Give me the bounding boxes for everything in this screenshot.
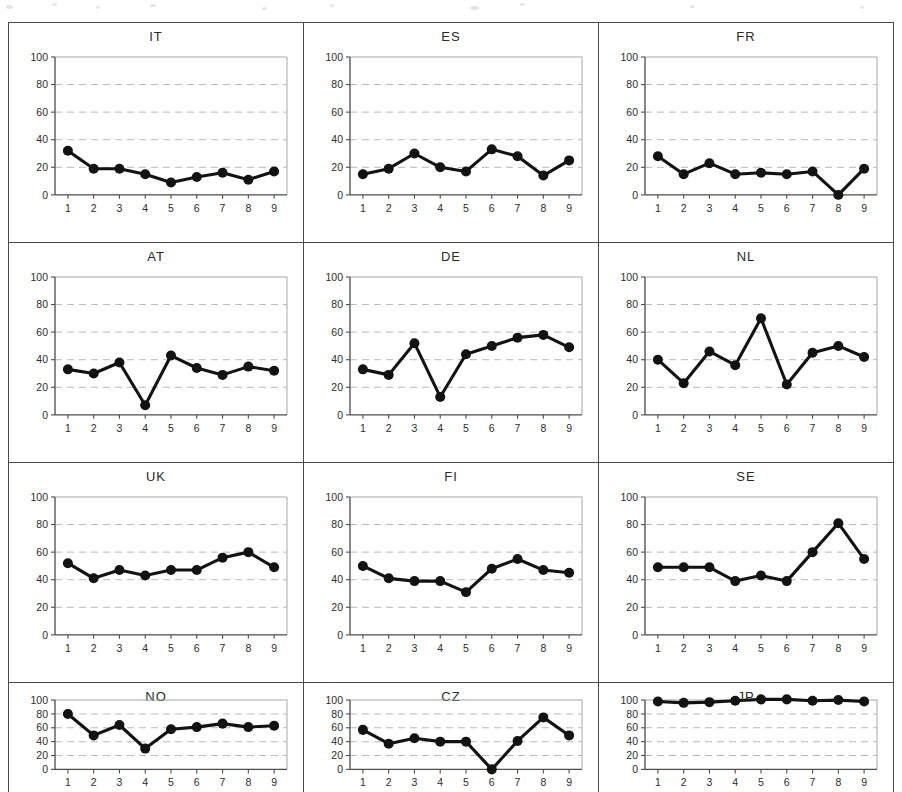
data-point-marker — [513, 151, 523, 161]
data-point-marker — [756, 168, 766, 178]
x-tick-label: 9 — [566, 203, 572, 214]
y-tick-label: 100 — [620, 693, 638, 705]
y-tick-label: 40 — [626, 354, 638, 365]
x-tick-label: 5 — [168, 776, 174, 788]
y-tick-label: 100 — [325, 491, 343, 502]
x-tick-label: 7 — [515, 203, 521, 214]
data-point-marker — [192, 363, 202, 373]
y-tick-label: 20 — [36, 602, 48, 613]
panel-cell: JP020406080100123456789 — [599, 682, 894, 792]
y-tick-label: 0 — [42, 409, 48, 420]
data-point-marker — [513, 332, 523, 342]
x-tick-label: 1 — [360, 776, 366, 788]
x-tick-label: 1 — [65, 203, 71, 214]
data-point-marker — [435, 736, 445, 746]
x-tick-label: 2 — [681, 776, 687, 788]
x-tick-label: 1 — [65, 643, 71, 654]
y-tick-label: 0 — [632, 763, 638, 775]
x-tick-label: 5 — [463, 643, 469, 654]
x-tick-label: 5 — [463, 776, 469, 788]
data-point-marker — [859, 352, 869, 362]
y-tick-label: 20 — [626, 382, 638, 393]
data-point-marker — [513, 554, 523, 564]
plot-area: 020406080100123456789 — [304, 23, 598, 242]
x-tick-label: 8 — [540, 423, 546, 434]
data-point-marker — [114, 565, 124, 575]
data-point-marker — [730, 360, 740, 370]
x-tick-label: 3 — [707, 776, 713, 788]
x-tick-label: 5 — [463, 203, 469, 214]
x-tick-label: 5 — [758, 203, 764, 214]
x-tick-label: 9 — [861, 776, 867, 788]
y-tick-label: 60 — [331, 547, 343, 558]
data-point-marker — [384, 370, 394, 380]
x-tick-label: 3 — [707, 423, 713, 434]
y-tick-label: 40 — [331, 735, 343, 747]
x-tick-label: 9 — [566, 643, 572, 654]
x-tick-label: 5 — [758, 643, 764, 654]
y-tick-label: 40 — [36, 574, 48, 585]
data-point-marker — [114, 164, 124, 174]
data-point-marker — [538, 330, 548, 340]
data-point-marker — [704, 158, 714, 168]
y-tick-label: 80 — [626, 519, 638, 530]
y-tick-label: 60 — [331, 721, 343, 733]
x-tick-label: 4 — [142, 776, 148, 788]
x-tick-label: 8 — [245, 423, 251, 434]
series-line — [363, 335, 569, 397]
data-point-marker — [63, 146, 73, 156]
x-tick-label: 2 — [681, 203, 687, 214]
data-point-marker — [833, 518, 843, 528]
data-point-marker — [461, 736, 471, 746]
plot-area: 020406080100123456789 — [9, 243, 303, 462]
y-tick-label: 100 — [620, 52, 638, 63]
data-point-marker — [166, 724, 176, 734]
plot-area: 020406080100123456789 — [304, 463, 598, 682]
data-point-marker — [140, 169, 150, 179]
y-tick-label: 80 — [626, 707, 638, 719]
x-tick-label: 7 — [515, 643, 521, 654]
x-tick-label: 6 — [784, 203, 790, 214]
y-tick-label: 20 — [331, 749, 343, 761]
x-tick-label: 1 — [360, 203, 366, 214]
x-tick-label: 2 — [386, 203, 392, 214]
data-point-marker — [192, 565, 202, 575]
chart-panel-8: SE020406080100123456789 — [599, 463, 893, 682]
data-point-marker — [435, 392, 445, 402]
y-tick-label: 0 — [632, 409, 638, 420]
y-tick-label: 80 — [331, 707, 343, 719]
data-point-marker — [564, 155, 574, 165]
y-tick-label: 0 — [42, 763, 48, 775]
plot-area: 020406080100123456789 — [9, 463, 303, 682]
x-tick-label: 3 — [117, 203, 123, 214]
x-tick-label: 3 — [117, 643, 123, 654]
y-tick-label: 20 — [36, 382, 48, 393]
data-point-marker — [782, 379, 792, 389]
data-point-marker — [89, 368, 99, 378]
x-tick-label: 2 — [91, 776, 97, 788]
x-tick-label: 7 — [220, 423, 226, 434]
x-tick-label: 9 — [861, 423, 867, 434]
y-tick-label: 60 — [36, 107, 48, 118]
y-tick-label: 20 — [626, 602, 638, 613]
x-tick-label: 4 — [732, 643, 738, 654]
data-point-marker — [140, 570, 150, 580]
y-tick-label: 40 — [331, 574, 343, 585]
y-tick-label: 60 — [36, 547, 48, 558]
plot-area: 020406080100123456789 — [599, 683, 893, 792]
data-point-marker — [833, 190, 843, 200]
panel-cell: AT020406080100123456789 — [9, 242, 304, 462]
x-tick-label: 9 — [271, 643, 277, 654]
data-point-marker — [564, 730, 574, 740]
data-point-marker — [538, 565, 548, 575]
data-point-marker — [192, 722, 202, 732]
chart-panel-7: FI020406080100123456789 — [304, 463, 598, 682]
y-tick-label: 20 — [36, 749, 48, 761]
y-tick-label: 80 — [626, 79, 638, 90]
y-tick-label: 40 — [331, 354, 343, 365]
data-point-marker — [704, 346, 714, 356]
data-point-marker — [63, 708, 73, 718]
x-tick-label: 7 — [515, 776, 521, 788]
x-tick-label: 1 — [655, 776, 661, 788]
y-tick-label: 60 — [331, 327, 343, 338]
